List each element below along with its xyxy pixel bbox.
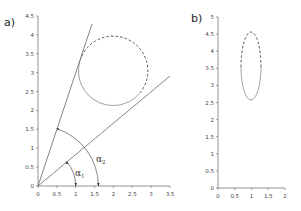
- y-tick-label: 5: [211, 14, 215, 20]
- x-tick-label: 1: [74, 191, 78, 197]
- y-tick-label: 1.5: [205, 134, 214, 140]
- panel-a: a) 0 0.5 1 1.5 2 2.5 3 3.5 4 4.5: [4, 13, 175, 197]
- y-tick-label: 1: [31, 145, 35, 151]
- panel-b-x-tick-labels: 0 0.5 1 1.5 2: [216, 193, 287, 199]
- circle-dashed-arc: [82, 36, 148, 94]
- x-tick-label: 1.5: [90, 191, 99, 197]
- x-tick-label: 3.5: [166, 191, 175, 197]
- x-tick-label: 2.5: [128, 191, 137, 197]
- y-tick-label: 0: [31, 183, 35, 189]
- y-tick-label: 2: [211, 117, 215, 123]
- y-tick-label: 3: [211, 82, 215, 88]
- y-tick-label: 3.5: [205, 65, 214, 71]
- x-tick-label: 0.5: [53, 191, 62, 197]
- x-tick-label: 3: [149, 191, 153, 197]
- x-tick-label: 1: [250, 193, 254, 199]
- y-tick-label: 4: [211, 48, 215, 54]
- x-tick-label: 0.5: [230, 193, 239, 199]
- tangent-line-steep: [38, 24, 92, 186]
- ellipse-solid-arc: [241, 67, 261, 100]
- y-tick-label: 1.5: [25, 126, 34, 132]
- figure: a) 0 0.5 1 1.5 2 2.5 3 3.5 4 4.5: [0, 0, 301, 211]
- y-tick-label: 0: [211, 185, 215, 191]
- panel-b-y-tick-labels: 0 0.5 1 1.5 2 2.5 3 3.5 4 4.5 5: [205, 14, 214, 191]
- x-tick-label: 1.5: [264, 193, 273, 199]
- ellipse-dashed-arc: [241, 32, 261, 67]
- y-tick-label: 0.5: [205, 168, 214, 174]
- y-tick-label: 4: [31, 32, 35, 38]
- panel-b-label: b): [191, 12, 202, 25]
- panel-a-x-tick-labels: 0 0.5 1 1.5 2 2.5 3 3.5: [36, 191, 175, 197]
- panel-a-y-tick-labels: 0 0.5 1 1.5 2 2.5 3 3.5 4 4.5: [25, 13, 34, 189]
- y-tick-label: 3.5: [25, 51, 34, 57]
- y-tick-label: 4.5: [25, 13, 34, 19]
- circle-solid-arc: [78, 56, 139, 106]
- x-tick-label: 2: [112, 191, 116, 197]
- x-tick-label: 2: [283, 193, 287, 199]
- y-tick-label: 2: [31, 107, 35, 113]
- y-tick-label: 2.5: [205, 100, 214, 106]
- y-tick-label: 3: [31, 70, 35, 76]
- panel-a-label: a): [4, 16, 15, 29]
- y-tick-label: 1: [211, 151, 215, 157]
- y-tick-label: 4.5: [205, 31, 214, 37]
- alpha-1-label: α1: [75, 168, 85, 179]
- y-tick-label: 2.5: [25, 89, 34, 95]
- x-tick-label: 0: [36, 191, 40, 197]
- panel-b: b) 0 0.5 1 1.5 2 2.5 3 3.5 4: [191, 12, 287, 199]
- tangent-line-shallow: [38, 76, 170, 186]
- alpha-2-label: α2: [96, 154, 106, 165]
- y-tick-label: 0.5: [25, 164, 34, 170]
- x-tick-label: 0: [216, 193, 220, 199]
